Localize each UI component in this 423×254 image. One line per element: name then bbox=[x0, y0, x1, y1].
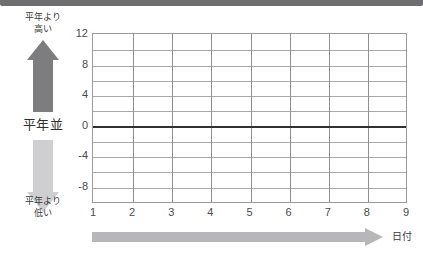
x-tick-label: 7 bbox=[318, 206, 338, 218]
x-tick-label: 2 bbox=[122, 206, 142, 218]
x-tick-label: 3 bbox=[161, 206, 181, 218]
temperature-anomaly-figure: 平年より 高い 平年並 平年より 低い 12840-4-8 123456789 bbox=[0, 0, 423, 254]
zero-baseline-layer bbox=[93, 34, 406, 202]
down-arrow-shaft bbox=[33, 140, 53, 193]
y-tick-label: 0 bbox=[58, 120, 88, 131]
x-axis-title: 日付 bbox=[392, 228, 412, 245]
x-axis: 123456789 bbox=[92, 206, 407, 222]
x-tick-label: 5 bbox=[240, 206, 260, 218]
x-tick-label: 4 bbox=[200, 206, 220, 218]
y-axis: 12840-4-8 bbox=[58, 33, 88, 203]
legend-above-normal-line1: 平年より bbox=[4, 12, 82, 24]
top-decorative-band bbox=[0, 0, 423, 6]
y-tick-label: 8 bbox=[58, 59, 88, 70]
up-arrow-shaft bbox=[33, 59, 53, 112]
date-arrow-head bbox=[365, 228, 383, 246]
y-tick-label: -4 bbox=[58, 150, 88, 161]
date-arrow-shaft bbox=[92, 232, 366, 242]
x-tick-label: 8 bbox=[357, 206, 377, 218]
plot-area bbox=[92, 33, 407, 203]
y-tick-label: 12 bbox=[58, 28, 88, 39]
x-tick-label: 1 bbox=[83, 206, 103, 218]
x-tick-label: 6 bbox=[279, 206, 299, 218]
date-direction-arrow-icon bbox=[92, 228, 392, 246]
y-tick-label: -8 bbox=[58, 181, 88, 192]
legend-below-normal-line2: 低い bbox=[4, 208, 82, 220]
up-arrow-head bbox=[27, 40, 59, 60]
x-tick-label: 9 bbox=[396, 206, 416, 218]
y-tick-label: 4 bbox=[58, 89, 88, 100]
zero-baseline-series bbox=[93, 126, 406, 128]
up-arrow-icon bbox=[33, 40, 53, 112]
